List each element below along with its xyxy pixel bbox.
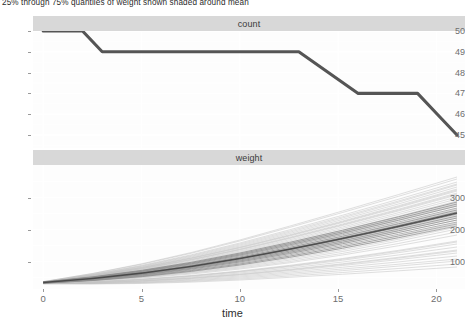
count-ytick-45: 45 [441,130,465,140]
weight-panel [33,165,465,289]
chart-figure: 25% through 75% quantiles of weight show… [0,0,465,325]
weight-ytick-100: 100 [441,257,465,267]
facet-strip-count: count [33,16,465,31]
count-ytick-46: 46 [441,109,465,119]
x-axis-title: time [0,307,465,319]
count-ytick-49: 49 [441,47,465,57]
xtick-20: 20 [431,293,442,304]
xtick-15: 15 [333,293,344,304]
count-ytickmark-47 [28,93,31,94]
xtickmark-5 [142,289,143,292]
weight-plot-svg [33,165,465,289]
weight-ytick-300: 300 [441,193,465,203]
count-ytickmark-48 [28,73,31,74]
xtick-5: 5 [139,293,144,304]
xtickmark-20 [436,289,437,292]
weight-ytickmark-300 [28,198,31,199]
weight-ytick-200: 200 [441,225,465,235]
xtick-0: 0 [41,293,46,304]
count-ytickmark-45 [28,135,31,136]
facet-strip-label-weight: weight [236,153,263,163]
xtickmark-10 [240,289,241,292]
count-ytick-47: 47 [441,88,465,98]
xtickmark-15 [338,289,339,292]
count-ytickmark-49 [28,52,31,53]
facet-strip-label-count: count [238,19,261,29]
count-ytick-50: 50 [441,26,465,36]
facet-strip-weight: weight [33,150,465,165]
count-plot-svg [33,31,465,148]
xtick-10: 10 [235,293,246,304]
weight-ytickmark-200 [28,230,31,231]
weight-ytickmark-100 [28,262,31,263]
count-ytick-48: 48 [441,68,465,78]
count-ytickmark-50 [28,31,31,32]
chart-title: 25% through 75% quantiles of weight show… [2,0,249,8]
xtickmark-0 [43,289,44,292]
count-panel [33,31,465,148]
count-ytickmark-46 [28,114,31,115]
